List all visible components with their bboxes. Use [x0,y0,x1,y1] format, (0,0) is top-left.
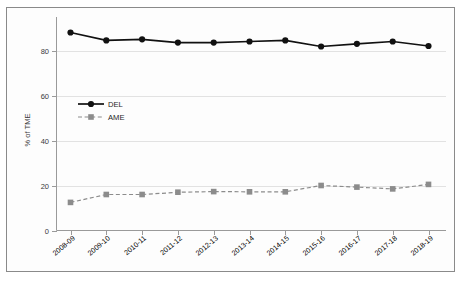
x-tick-label: 2015-16 [301,234,327,258]
x-tick-label: 2012-13 [194,234,220,258]
data-point-del [139,36,145,42]
legend-label-ame: AME [108,113,124,122]
chart-legend: DELAME [78,100,124,122]
data-point-del [211,40,217,46]
x-tick-label: 2011-12 [158,234,184,258]
data-point-ame [318,183,324,189]
data-point-ame [426,182,432,188]
data-point-ame [104,192,110,198]
data-point-ame [68,200,74,206]
x-tick-label: 2016-17 [337,234,363,258]
x-tick-label: 2008-09 [51,234,77,258]
line-chart: 020406080 % of TME 2008-092009-102010-11… [0,0,463,282]
data-point-del [354,41,360,47]
y-tick-label: 60 [41,92,49,101]
data-point-ame [211,189,217,195]
data-point-del [318,43,324,49]
y-tick-label: 20 [41,182,49,191]
data-point-ame [247,189,253,195]
legend-label-del: DEL [108,100,123,109]
data-point-del [246,38,252,44]
y-axis: 020406080 [41,17,57,236]
data-point-del [390,38,396,44]
data-point-ame [390,186,396,192]
data-point-del [103,37,109,43]
data-point-ame [354,184,360,190]
data-point-ame [175,189,181,195]
x-tick-labels: 2008-092009-102010-112011-122012-132013-… [51,234,435,258]
y-tick-label: 0 [45,227,49,236]
x-tick-label: 2009-10 [86,234,112,258]
x-tick-label: 2013-14 [230,234,256,258]
y-axis-title-text: % of TME [23,114,32,147]
data-point-ame [283,189,289,195]
data-point-del [67,29,73,35]
data-point-ame [139,192,145,198]
x-tick-label: 2018-19 [409,234,435,258]
y-tick-label: 40 [41,137,49,146]
x-tick-label: 2014-15 [265,234,291,258]
y-tick-label: 80 [41,47,49,56]
data-point-del [282,37,288,43]
y-axis-title: % of TME [23,114,32,147]
legend-marker-del [88,101,94,107]
data-point-del [425,43,431,49]
x-tick-label: 2017-18 [373,234,399,258]
x-axis [57,231,447,236]
legend-marker-ame [88,114,94,120]
data-point-del [175,40,181,46]
x-tick-label: 2010-11 [122,234,148,258]
